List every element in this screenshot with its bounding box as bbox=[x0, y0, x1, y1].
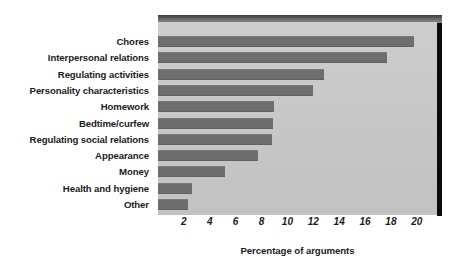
x-tick-label: 2 bbox=[181, 216, 187, 227]
category-label: Personality characteristics bbox=[30, 85, 149, 96]
bar bbox=[158, 85, 313, 96]
category-label: Homework bbox=[101, 101, 149, 112]
bar bbox=[158, 36, 414, 47]
x-axis-title: Percentage of arguments bbox=[158, 245, 437, 256]
bar bbox=[158, 118, 273, 129]
x-tick-label: 16 bbox=[359, 216, 370, 227]
bar bbox=[158, 150, 258, 161]
x-axis-tick-labels: 2468101214161820 bbox=[158, 216, 437, 232]
bar-series bbox=[158, 22, 437, 215]
x-tick-label: 18 bbox=[385, 216, 396, 227]
category-label: Appearance bbox=[95, 150, 149, 161]
bar bbox=[158, 134, 272, 145]
category-label: Interpersonal relations bbox=[48, 52, 149, 63]
category-label: Bedtime/curfew bbox=[79, 118, 149, 129]
x-tick-label: 6 bbox=[233, 216, 239, 227]
x-tick-label: 12 bbox=[308, 216, 319, 227]
category-label: Regulating activities bbox=[58, 69, 149, 80]
category-label: Money bbox=[119, 166, 149, 177]
plot-right-shadow bbox=[437, 20, 442, 216]
x-tick-label: 20 bbox=[411, 216, 422, 227]
bar bbox=[158, 69, 324, 80]
bar bbox=[158, 166, 225, 177]
x-tick-label: 10 bbox=[282, 216, 293, 227]
category-label: Other bbox=[124, 199, 149, 210]
x-tick-label: 4 bbox=[207, 216, 213, 227]
bar bbox=[158, 52, 387, 63]
bar bbox=[158, 199, 188, 210]
category-label: Chores bbox=[117, 36, 149, 47]
x-tick-label: 14 bbox=[334, 216, 345, 227]
bar-chart-figure: ChoresInterpersonal relationsRegulating … bbox=[0, 0, 467, 273]
bar bbox=[158, 101, 274, 112]
category-label: Regulating social relations bbox=[30, 134, 149, 145]
category-axis-labels: ChoresInterpersonal relationsRegulating … bbox=[0, 22, 153, 215]
category-label: Health and hygiene bbox=[63, 183, 149, 194]
bar bbox=[158, 183, 192, 194]
x-tick-label: 8 bbox=[259, 216, 265, 227]
